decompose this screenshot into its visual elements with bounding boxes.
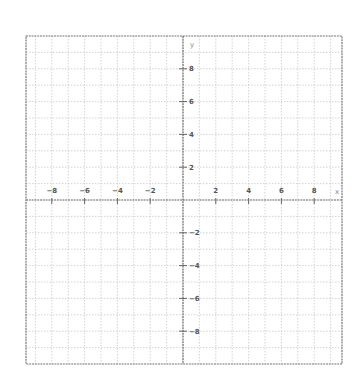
x-tick-label: 8 xyxy=(312,187,317,195)
y-tick-label: 8 xyxy=(189,65,194,73)
y-axis-label: y xyxy=(190,41,194,49)
axes xyxy=(26,36,342,364)
x-tick-label: 2 xyxy=(213,187,218,195)
y-tick-label: 2 xyxy=(189,164,194,172)
y-tick-label: 6 xyxy=(189,98,194,106)
y-tick-label: 4 xyxy=(189,131,194,139)
y-tick-label: −4 xyxy=(189,262,200,270)
x-tick-label: −8 xyxy=(46,187,57,195)
x-tick-label: 6 xyxy=(279,187,284,195)
x-tick-label: 4 xyxy=(246,187,251,195)
x-tick-label: −6 xyxy=(79,187,90,195)
y-tick-label: −2 xyxy=(189,229,200,237)
y-tick-label: −8 xyxy=(189,328,200,336)
x-axis-label: x xyxy=(335,188,339,196)
x-tick-label: −2 xyxy=(145,187,156,195)
coordinate-plane: −8−6−4−224688642−2−4−6−8 x y xyxy=(0,0,358,387)
x-tick-label: −4 xyxy=(112,187,123,195)
y-tick-label: −6 xyxy=(189,295,200,303)
